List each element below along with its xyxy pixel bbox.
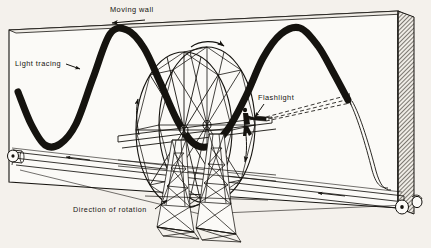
label-moving-wall: Moving wall — [110, 5, 154, 14]
label-direction-of-rotation-group: Direction of rotation — [73, 200, 167, 214]
label-light-tracing: Light tracing — [15, 59, 61, 68]
flashlight-device — [255, 116, 266, 121]
moving-wall-arrow — [112, 20, 145, 23]
label-moving-wall-group: Moving wall — [110, 5, 154, 23]
illustration-canvas: Moving wall Light tracing Flashlight Dir… — [0, 0, 431, 248]
roller-right-front — [396, 200, 409, 214]
label-direction-of-rotation: Direction of rotation — [73, 205, 147, 214]
figure-svg: Moving wall Light tracing Flashlight Dir… — [0, 0, 431, 248]
label-flashlight: Flashlight — [258, 93, 294, 102]
